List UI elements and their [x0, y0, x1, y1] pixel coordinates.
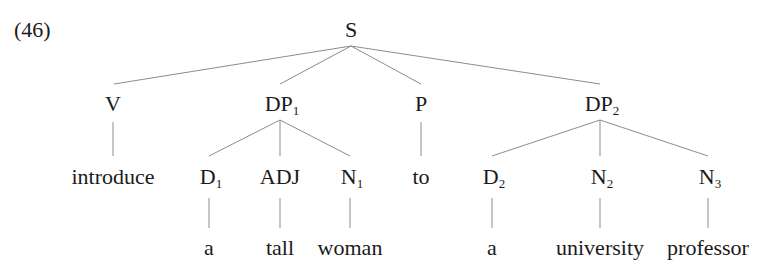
- leaf-a-1: a: [204, 237, 214, 259]
- leaf-woman: woman: [318, 237, 383, 259]
- node-d2: D2: [483, 166, 505, 188]
- node-introduce: introduce: [71, 166, 154, 188]
- node-dp2: DP2: [585, 93, 620, 115]
- leaf-university: university: [556, 237, 644, 259]
- node-dp1: DP1: [265, 93, 300, 115]
- edge-dp2-d2: [492, 120, 600, 156]
- node-n1: N1: [341, 166, 363, 188]
- edge-s-dp2: [351, 46, 600, 84]
- node-p: P: [415, 93, 427, 115]
- edge-dp1-n1: [280, 120, 350, 156]
- node-n2: N2: [591, 166, 613, 188]
- leaf-tall: tall: [266, 237, 294, 259]
- edge-dp1-d1: [209, 120, 280, 156]
- tree-edges: [0, 0, 767, 267]
- node-n3: N3: [699, 166, 721, 188]
- node-s: S: [345, 19, 357, 41]
- node-adj: ADJ: [260, 166, 300, 188]
- node-v: V: [105, 93, 121, 115]
- edge-dp2-n3: [600, 120, 708, 156]
- leaf-professor: professor: [667, 237, 749, 259]
- node-d1: D1: [200, 166, 222, 188]
- node-to: to: [412, 166, 429, 188]
- leaf-a-2: a: [487, 237, 497, 259]
